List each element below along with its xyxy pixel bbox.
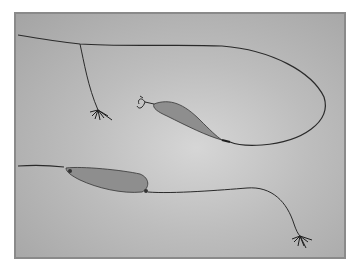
- upper-spoon-lure: [137, 96, 230, 142]
- lower-trailer-line: [148, 188, 300, 236]
- upper-fly-hook-icon: [90, 110, 112, 120]
- upper-dropper-line: [80, 44, 98, 110]
- upper-fishing-line: [18, 35, 325, 145]
- lower-spoon-lure: [66, 167, 148, 193]
- lure-photo: Photograph of two spoon lures connected …: [14, 12, 346, 259]
- treble-hook-icon: [137, 96, 154, 108]
- lower-fishing-line: [18, 165, 64, 167]
- lower-fly-hook-icon: [292, 236, 312, 248]
